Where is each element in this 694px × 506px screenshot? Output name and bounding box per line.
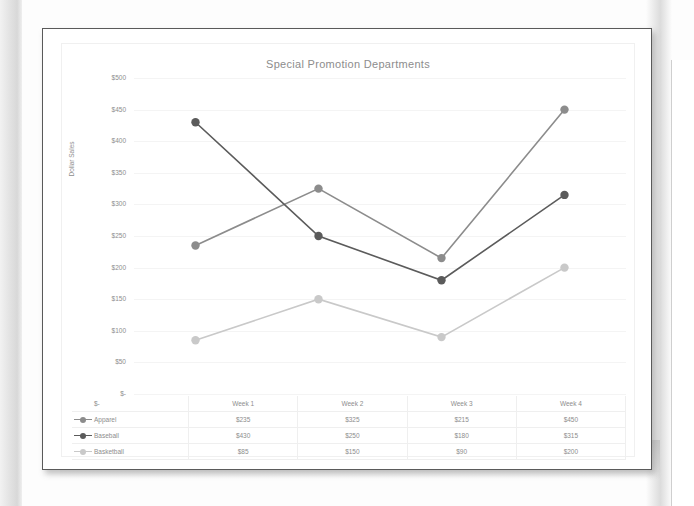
gridline bbox=[134, 394, 626, 395]
y-tick-label: $350 bbox=[72, 169, 126, 176]
data-point-basketball-4[interactable] bbox=[560, 263, 568, 271]
table-header-week-2: Week 2 bbox=[298, 396, 407, 412]
y-tick-label: $150 bbox=[72, 295, 126, 302]
y-tick-label: $500 bbox=[72, 74, 126, 81]
chart-object[interactable]: Special Promotion Departments Dollar Sal… bbox=[61, 43, 635, 457]
table-header-row: $- Week 1Week 2Week 3Week 4 bbox=[72, 396, 626, 412]
left-gutter-shadow bbox=[0, 0, 22, 506]
table-cell: $150 bbox=[298, 444, 407, 460]
plot-wrapper: Dollar Sales $-$50$100$150$200$250$300$3… bbox=[62, 44, 634, 456]
data-point-baseball-4[interactable] bbox=[560, 191, 568, 199]
table-header-week-4: Week 4 bbox=[516, 396, 625, 412]
table-cell: $235 bbox=[189, 412, 298, 428]
table-cell: $85 bbox=[189, 444, 298, 460]
y-axis-title: Dollar Sales bbox=[68, 124, 75, 194]
table-corner-label: $- bbox=[72, 396, 189, 412]
table-row: Basketball$85$150$90$200 bbox=[72, 444, 626, 460]
data-point-apparel-2[interactable] bbox=[314, 184, 322, 192]
legend-key-apparel: Apparel bbox=[72, 412, 189, 428]
table-body: Apparel$235$325$215$450Baseball$430$250$… bbox=[72, 412, 626, 460]
legend-marker-icon bbox=[74, 416, 92, 423]
data-point-apparel-1[interactable] bbox=[191, 241, 199, 249]
data-point-basketball-3[interactable] bbox=[437, 333, 445, 341]
document-sheet: Special Promotion Departments Dollar Sal… bbox=[42, 28, 652, 470]
y-tick-label: $50 bbox=[72, 358, 126, 365]
series-line-baseball bbox=[196, 122, 565, 280]
table-row: Apparel$235$325$215$450 bbox=[72, 412, 626, 428]
plot-area bbox=[134, 78, 626, 394]
data-point-apparel-3[interactable] bbox=[437, 254, 445, 262]
data-point-apparel-4[interactable] bbox=[560, 105, 568, 113]
table-cell: $325 bbox=[298, 412, 407, 428]
legend-marker-icon bbox=[74, 432, 92, 439]
y-tick-label: $400 bbox=[72, 137, 126, 144]
data-point-baseball-3[interactable] bbox=[437, 276, 445, 284]
y-tick-label: $100 bbox=[72, 327, 126, 334]
table-cell: $450 bbox=[516, 412, 625, 428]
legend-label: Apparel bbox=[94, 416, 116, 423]
table-cell: $215 bbox=[407, 412, 516, 428]
series-line-apparel bbox=[196, 110, 565, 259]
table-cell: $315 bbox=[516, 428, 625, 444]
series-lines bbox=[134, 78, 626, 394]
table-header-week-1: Week 1 bbox=[189, 396, 298, 412]
table-header-week-3: Week 3 bbox=[407, 396, 516, 412]
series-line-basketball bbox=[196, 268, 565, 341]
data-point-basketball-1[interactable] bbox=[191, 336, 199, 344]
table-cell: $90 bbox=[407, 444, 516, 460]
y-tick-label: $450 bbox=[72, 106, 126, 113]
data-point-baseball-1[interactable] bbox=[191, 118, 199, 126]
data-point-basketball-2[interactable] bbox=[314, 295, 322, 303]
y-tick-label: $300 bbox=[72, 200, 126, 207]
table-cell: $200 bbox=[516, 444, 625, 460]
legend-key-basketball: Basketball bbox=[72, 444, 189, 460]
legend-key-baseball: Baseball bbox=[72, 428, 189, 444]
legend-label: Basketball bbox=[94, 448, 124, 455]
y-tick-label: $200 bbox=[72, 264, 126, 271]
legend-marker-icon bbox=[74, 448, 92, 455]
legend-label: Baseball bbox=[94, 432, 119, 439]
data-point-baseball-2[interactable] bbox=[314, 232, 322, 240]
table-cell: $180 bbox=[407, 428, 516, 444]
table-cell: $430 bbox=[189, 428, 298, 444]
table-row: Baseball$430$250$180$315 bbox=[72, 428, 626, 444]
chart-data-table: $- Week 1Week 2Week 3Week 4 Apparel$235$… bbox=[72, 396, 626, 460]
right-panel-edge bbox=[671, 60, 694, 506]
table-cell: $250 bbox=[298, 428, 407, 444]
y-tick-label: $250 bbox=[72, 232, 126, 239]
